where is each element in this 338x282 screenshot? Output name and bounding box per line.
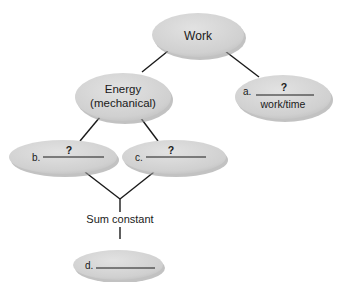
node-b-prefix: b.: [32, 152, 40, 163]
node-a: a. ? work/time: [235, 75, 333, 122]
node-c: c. ?: [122, 140, 228, 177]
node-a-sub: work/time: [260, 98, 306, 110]
node-a-blank: ?: [281, 81, 287, 93]
node-energy-line2: (mechanical): [90, 97, 156, 109]
edge-c-sum: [120, 172, 154, 199]
edge-b-sum: [85, 172, 120, 199]
concept-map: Work Energy (mechanical) a. ? work/time …: [0, 0, 338, 282]
sum-constant-label: Sum constant: [86, 213, 153, 225]
node-c-blank: ?: [168, 144, 174, 156]
edge-energy-b: [80, 117, 100, 141]
node-b: b. ?: [9, 140, 119, 177]
node-c-prefix: c.: [135, 152, 143, 163]
node-b-blank: ?: [66, 144, 72, 156]
node-a-prefix: a.: [243, 86, 251, 97]
edge-work-a: [225, 51, 259, 77]
node-energy: Energy (mechanical): [75, 73, 173, 124]
node-d: d.: [73, 250, 165, 282]
node-work-label: Work: [184, 29, 213, 43]
node-energy-line1: Energy: [105, 83, 142, 95]
edge-work-energy: [142, 51, 168, 72]
node-d-prefix: d.: [85, 260, 93, 271]
